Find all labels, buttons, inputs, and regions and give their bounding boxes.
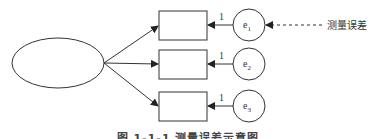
indicator-box-3 (159, 92, 207, 121)
indicator-box-2 (159, 50, 207, 79)
path-arrow-1 (104, 26, 158, 63)
loading-label-2: 1 (219, 50, 224, 61)
path-arrow-3 (104, 63, 158, 106)
figure-caption: 图 1-1-1 测量误差示意图 (0, 129, 376, 139)
error-label-3: e3 (243, 100, 251, 114)
loading-label-1: 1 (219, 11, 224, 22)
annotation-label: 测量误差 (327, 19, 367, 31)
measurement-error-diagram: 1 1 1 e1 e2 e3 测量误差 (0, 0, 376, 139)
path-arrow-2 (104, 63, 158, 64)
latent-variable-ellipse (12, 38, 104, 88)
loading-label-3: 1 (219, 92, 224, 103)
error-label-2: e2 (243, 58, 251, 72)
error-label-1: e1 (243, 19, 251, 33)
indicator-box-1 (159, 11, 207, 40)
